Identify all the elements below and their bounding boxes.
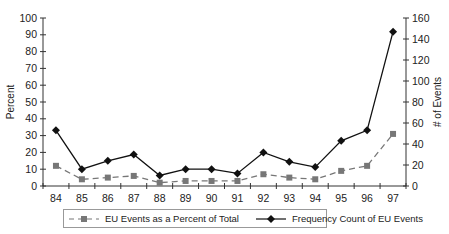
chart-container: 0102030405060708090100020406080100120140… <box>0 0 449 234</box>
dashed-square-marker-icon <box>68 214 100 224</box>
right-tick-label: 100 <box>412 75 430 87</box>
square-marker-icon <box>53 163 59 169</box>
x-tick-label: 93 <box>283 192 295 204</box>
square-marker-icon <box>79 176 85 182</box>
legend-item-frequency: Frequency Count of EU Events <box>255 213 423 224</box>
x-tick-label: 96 <box>361 192 373 204</box>
right-tick-label: 140 <box>412 33 430 45</box>
legend-label-frequency: Frequency Count of EU Events <box>292 213 423 224</box>
square-marker-icon <box>105 175 111 181</box>
x-tick-label: 94 <box>309 192 321 204</box>
left-tick-label: 80 <box>25 45 37 57</box>
y2-axis-title: # of Events <box>432 77 443 127</box>
left-tick-label: 50 <box>25 96 37 108</box>
x-tick-label: 90 <box>206 192 218 204</box>
x-tick-label: 89 <box>180 192 192 204</box>
y-axis-title: Percent <box>5 85 16 120</box>
right-tick-label: 40 <box>412 138 424 150</box>
right-tick-label: 80 <box>412 96 424 108</box>
left-tick-label: 10 <box>25 163 37 175</box>
right-tick-label: 160 <box>412 12 430 24</box>
square-marker-icon <box>312 176 318 182</box>
legend: EU Events as a Percent of Total Frequenc… <box>63 209 327 228</box>
left-tick-label: 60 <box>25 79 37 91</box>
square-marker-icon <box>390 131 396 137</box>
right-tick-label: 20 <box>412 159 424 171</box>
left-tick-label: 70 <box>25 62 37 74</box>
right-tick-label: 60 <box>412 117 424 129</box>
diamond-marker-icon <box>52 126 60 134</box>
x-tick-label: 84 <box>50 192 62 204</box>
diamond-marker-icon <box>285 158 293 166</box>
x-tick-label: 85 <box>76 192 88 204</box>
x-tick-label: 91 <box>232 192 244 204</box>
x-tick-label: 87 <box>128 192 140 204</box>
diamond-marker-icon <box>104 157 112 165</box>
x-tick-label: 95 <box>335 192 347 204</box>
x-tick-label: 86 <box>102 192 114 204</box>
left-tick-label: 0 <box>31 180 37 192</box>
square-marker-icon <box>157 180 163 186</box>
legend-item-percent: EU Events as a Percent of Total <box>68 213 239 224</box>
diamond-marker-icon <box>389 28 397 36</box>
square-marker-icon <box>234 178 240 184</box>
diamond-marker-icon <box>182 165 190 173</box>
square-marker-icon <box>364 163 370 169</box>
diamond-marker-icon <box>78 165 86 173</box>
left-tick-label: 100 <box>19 12 37 24</box>
diamond-marker-icon <box>363 126 371 134</box>
series-line-1 <box>56 32 393 176</box>
square-marker-icon <box>131 173 137 179</box>
left-tick-label: 40 <box>25 112 37 124</box>
left-tick-label: 30 <box>25 129 37 141</box>
square-marker-icon <box>338 168 344 174</box>
left-tick-label: 20 <box>25 146 37 158</box>
x-tick-label: 88 <box>154 192 166 204</box>
square-marker-icon <box>183 178 189 184</box>
x-tick-label: 92 <box>258 192 270 204</box>
line-chart: 0102030405060708090100020406080100120140… <box>0 0 449 234</box>
square-marker-icon <box>260 171 266 177</box>
legend-label-percent: EU Events as a Percent of Total <box>105 213 239 224</box>
square-marker-icon <box>286 175 292 181</box>
solid-diamond-marker-icon <box>255 214 287 224</box>
diamond-marker-icon <box>208 165 216 173</box>
square-marker-icon <box>209 178 215 184</box>
x-tick-label: 97 <box>387 192 399 204</box>
right-tick-label: 0 <box>412 180 418 192</box>
right-tick-label: 120 <box>412 54 430 66</box>
left-tick-label: 90 <box>25 28 37 40</box>
